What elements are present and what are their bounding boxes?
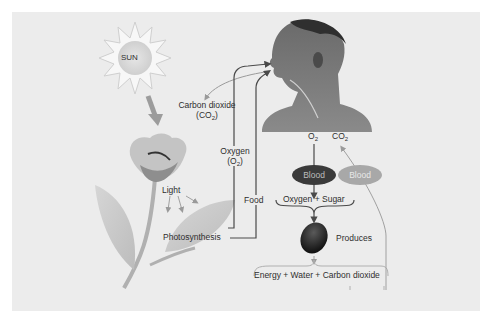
- light-rays: [168, 196, 196, 210]
- carbon-dioxide-formula: (CO2): [175, 110, 239, 120]
- sun-label: SUN: [121, 53, 138, 63]
- oxygen-label: Oxygen (O2): [216, 146, 254, 166]
- plant-illustration: [95, 134, 235, 289]
- produces-label: Produces: [336, 233, 372, 243]
- photosynthesis-label: Photosynthesis: [163, 232, 221, 242]
- boy-illustration: [262, 19, 372, 132]
- oxygen-sugar-label: Oxygen + Sugar: [283, 194, 345, 204]
- red-blood-cell-icon: [295, 218, 332, 258]
- oxygen-formula: (O2): [216, 156, 254, 166]
- blood-oxygenated-badge: Blood: [292, 165, 336, 185]
- sun-to-flower-arrow: [148, 96, 163, 126]
- oxygen-text: Oxygen: [216, 146, 254, 156]
- food-label: Food: [243, 195, 264, 205]
- carbon-dioxide-text: Carbon dioxide: [175, 100, 239, 110]
- o2-label: O2: [308, 131, 318, 141]
- carbon-dioxide-label: Carbon dioxide (CO2): [175, 100, 239, 120]
- light-label: Light: [162, 185, 180, 195]
- outputs-label: Energy + Water + Carbon dioxide: [254, 270, 380, 280]
- blood-deoxygenated-badge: Blood: [338, 165, 382, 185]
- co2-label: CO2: [332, 131, 348, 141]
